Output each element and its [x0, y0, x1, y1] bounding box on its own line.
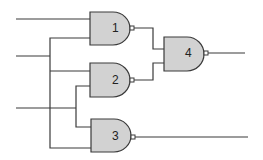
gate-2-label: 2 [112, 73, 119, 87]
gate-4-label: 4 [185, 46, 192, 60]
bus-wire-c [76, 86, 91, 127]
gate-2-inverter-bubble [130, 78, 134, 82]
gate-1-inverter-bubble [130, 26, 134, 30]
nand-gate-3: 3 [91, 119, 135, 152]
wire-gate-2-to-gate-4 [134, 63, 164, 80]
gate-3-inverter-bubble [131, 135, 135, 139]
nand-gate-1: 1 [90, 12, 134, 45]
wire-gate-1-to-gate-4 [134, 28, 164, 49]
gate-3-label: 3 [112, 129, 119, 143]
logic-circuit-diagram: 1 2 3 4 [0, 0, 263, 160]
gate-4-inverter-bubble [204, 51, 208, 55]
gate-2-body [90, 63, 130, 97]
nand-gate-4: 4 [164, 37, 208, 71]
gate-1-body [90, 12, 130, 45]
gate-4-body [164, 37, 204, 71]
bus-wire-b [50, 38, 91, 148]
nand-gate-2: 2 [90, 63, 134, 97]
gate-3-body [91, 119, 131, 152]
gate-1-label: 1 [112, 21, 119, 35]
